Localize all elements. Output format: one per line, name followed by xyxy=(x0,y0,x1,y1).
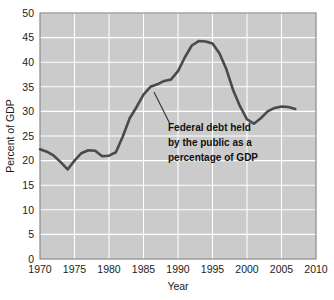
gdp-debt-line-chart: 05101520253035404550 1970197519801985199… xyxy=(0,0,334,300)
y-axis-title: Percent of GDP xyxy=(4,99,16,173)
x-tick-label: 1980 xyxy=(97,263,121,275)
annotation-line-3: percentage of GDP xyxy=(168,152,258,163)
chart-container: 05101520253035404550 1970197519801985199… xyxy=(0,0,334,300)
x-tick-label: 1995 xyxy=(201,263,225,275)
y-tick-label: 30 xyxy=(22,105,34,117)
y-tick-label: 25 xyxy=(22,130,34,142)
x-tick-label: 1985 xyxy=(132,263,156,275)
y-tick-label: 45 xyxy=(22,31,34,43)
x-tick-label: 2005 xyxy=(270,263,294,275)
annotation-line-1: Federal debt held xyxy=(168,122,251,133)
y-tick-label: 5 xyxy=(28,228,34,240)
y-tick-label: 20 xyxy=(22,154,34,166)
x-tick-label: 1990 xyxy=(166,263,190,275)
y-tick-label: 10 xyxy=(22,204,34,216)
x-axis-tick-labels: 197019751980198519901995200020052010 xyxy=(28,263,328,275)
x-tick-label: 1970 xyxy=(28,263,52,275)
y-tick-label: 35 xyxy=(22,81,34,93)
x-tick-label: 1975 xyxy=(63,263,87,275)
y-tick-label: 15 xyxy=(22,179,34,191)
y-tick-label: 40 xyxy=(22,56,34,68)
x-tick-label: 2010 xyxy=(304,263,328,275)
x-tick-label: 2000 xyxy=(235,263,259,275)
x-axis-title: Year xyxy=(167,280,189,292)
annotation-line-2: by the public as a xyxy=(168,137,252,148)
y-tick-label: 50 xyxy=(22,7,34,19)
